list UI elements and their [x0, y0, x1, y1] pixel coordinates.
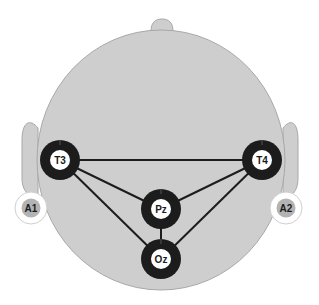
electrode-label: Pz — [155, 204, 167, 215]
electrode-label: T4 — [256, 155, 268, 166]
reference-electrode-a2: A2 — [270, 192, 302, 224]
nose — [151, 19, 173, 31]
reference-electrode-a1: A1 — [15, 192, 47, 224]
electrode-oz: Oz — [141, 239, 181, 279]
eeg-montage-diagram: A1 A2 T3 T4 Pz Oz — [0, 0, 319, 305]
electrode-t4: T4 — [242, 140, 282, 180]
electrode-t3: T3 — [40, 140, 80, 180]
electrode-label: A1 — [25, 203, 38, 214]
left-ear — [22, 123, 38, 197]
electrode-pz: Pz — [141, 189, 181, 229]
electrode-label: A2 — [280, 203, 293, 214]
electrode-label: T3 — [54, 155, 66, 166]
electrode-label: Oz — [155, 254, 168, 265]
